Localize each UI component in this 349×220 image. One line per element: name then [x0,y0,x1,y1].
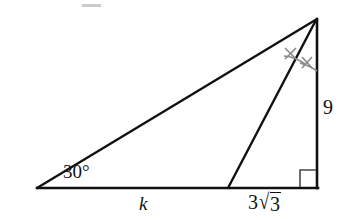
right-angle-marker [300,170,316,187]
vertical-side-label: 9 [323,97,333,117]
triangle-diagram-canvas [0,0,349,220]
square-root-icon: √ 3 [259,192,281,214]
radical-coefficient: 3 [248,192,258,212]
radicand-value: 3 [270,192,281,214]
geometry-figure: 30° k 9 3 √ 3 [0,0,349,220]
radical-sign-glyph: √ [259,192,269,212]
left-base-segment-label: k [139,194,147,213]
right-base-segment-label: 3 √ 3 [248,192,281,214]
base-angle-label: 30° [63,162,90,181]
top-dash-artifact [82,4,101,7]
